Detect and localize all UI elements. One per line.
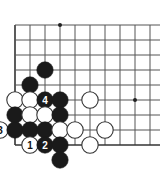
white-stone[interactable]: [97, 122, 113, 138]
black-stone[interactable]: [37, 62, 53, 78]
white-stone[interactable]: [37, 107, 53, 123]
goban-svg: [0, 0, 160, 170]
black-stone[interactable]: [52, 92, 68, 108]
black-stone[interactable]: [37, 122, 53, 138]
go-board-diagram: 4312: [0, 0, 160, 170]
black-stone[interactable]: [7, 122, 23, 138]
black-stone[interactable]: [7, 107, 23, 123]
white-stone[interactable]: [67, 122, 83, 138]
star-point: [58, 23, 62, 27]
star-point: [133, 98, 137, 102]
white-stone[interactable]: [82, 92, 98, 108]
black-stone[interactable]: [52, 107, 68, 123]
white-stone[interactable]: [52, 122, 68, 138]
black-stone[interactable]: [22, 122, 38, 138]
black-stone[interactable]: [37, 92, 53, 108]
black-stone[interactable]: [22, 77, 38, 93]
white-stone[interactable]: [82, 137, 98, 153]
white-stone[interactable]: [22, 137, 38, 153]
black-stone[interactable]: [37, 137, 53, 153]
white-stone[interactable]: [7, 92, 23, 108]
black-stone[interactable]: [52, 152, 68, 168]
black-stone[interactable]: [52, 137, 68, 153]
white-stone[interactable]: [22, 107, 38, 123]
white-stone[interactable]: [22, 92, 38, 108]
star-points: [58, 23, 137, 102]
